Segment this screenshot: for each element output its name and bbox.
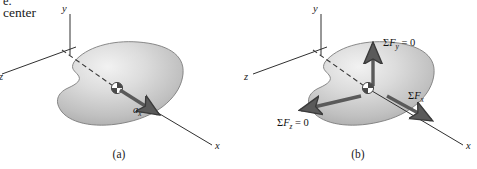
sum-forces-z-label-b: ΣFz = 0 [277, 117, 309, 131]
caption-b: (b) [239, 148, 477, 160]
z-axis-label-a: z [0, 71, 3, 82]
panel-b-drawing: y x z ΣFy = 0 ΣFz = 0 ΣFx [239, 0, 477, 169]
physics-figure-rigid-body-translation: e. center [0, 0, 477, 169]
panel-a-drawing: y x z ax [0, 0, 238, 169]
panel-b: y x z ΣFy = 0 ΣFz = 0 ΣFx (b) [239, 0, 477, 169]
z-axis-a [2, 47, 76, 74]
center-of-mass-marker-b [362, 82, 373, 93]
panel-a: y x z ax (a) [0, 0, 238, 169]
y-axis-label-b: y [312, 3, 318, 14]
y-axis-label-a: y [61, 3, 67, 14]
z-axis-label-b: z [243, 71, 248, 82]
z-axis-b [253, 47, 327, 74]
caption-a: (a) [0, 148, 238, 160]
